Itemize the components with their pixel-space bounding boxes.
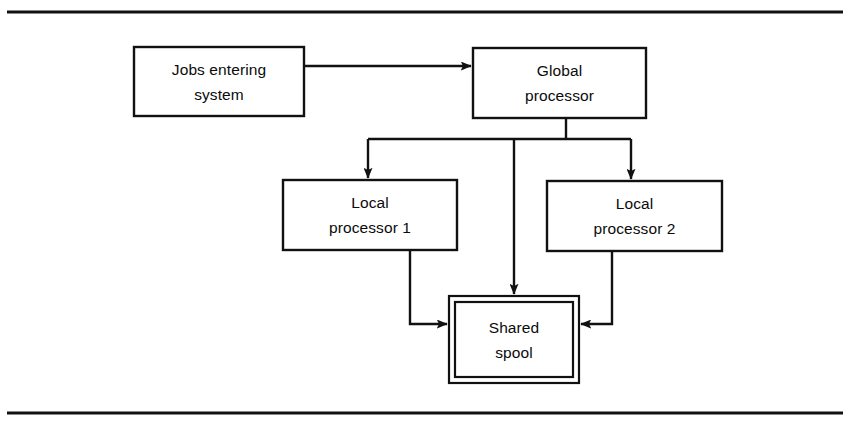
local-processor-1-box	[283, 180, 457, 250]
jobs-entering-system-box	[134, 47, 304, 116]
figure-canvas: Jobs entering system Global processor Lo…	[0, 0, 858, 424]
local-processor-2-box	[547, 181, 722, 251]
edge-local2-to-spool	[581, 251, 612, 324]
shared-spool-box-inner	[455, 302, 573, 377]
global-processor-box	[473, 48, 646, 118]
edge-local1-to-spool	[410, 250, 447, 324]
diagram-graphics	[0, 0, 858, 424]
